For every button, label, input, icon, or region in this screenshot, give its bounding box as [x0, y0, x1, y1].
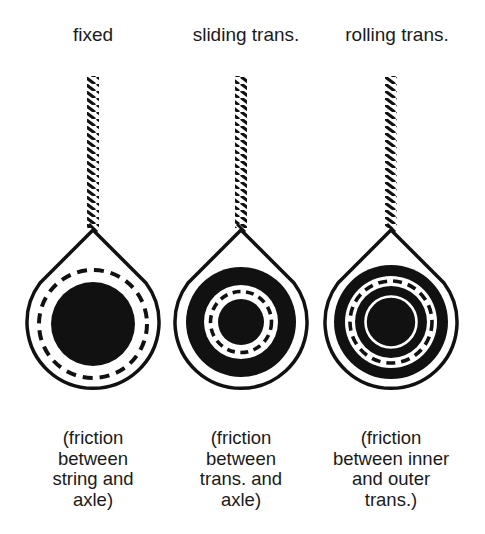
pulley-sliding	[175, 76, 307, 388]
caption-line: between	[166, 449, 316, 470]
caption-line: string and	[18, 469, 168, 490]
caption-line: (friction	[18, 428, 168, 449]
caption-line: between	[18, 449, 168, 470]
pulley-rolling	[325, 76, 457, 388]
caption-line: and outer	[316, 469, 466, 490]
caption-sliding-trans: (friction between trans. and axle)	[166, 428, 316, 510]
pulley-fixed	[27, 76, 159, 388]
caption-line: trans. and	[166, 469, 316, 490]
caption-line: axle)	[18, 490, 168, 511]
caption-line: (friction	[166, 428, 316, 449]
caption-fixed: (friction between string and axle)	[18, 428, 168, 510]
axle-disk	[218, 299, 264, 345]
caption-line: (friction	[316, 428, 466, 449]
caption-line: trans.)	[316, 490, 466, 511]
caption-rolling-trans: (friction between inner and outer trans.…	[316, 428, 466, 510]
axle-disk	[51, 282, 135, 366]
string-icon	[385, 76, 397, 228]
caption-line: axle)	[166, 490, 316, 511]
string-icon	[87, 76, 99, 228]
caption-line: between inner	[316, 449, 466, 470]
string-icon	[235, 76, 247, 228]
